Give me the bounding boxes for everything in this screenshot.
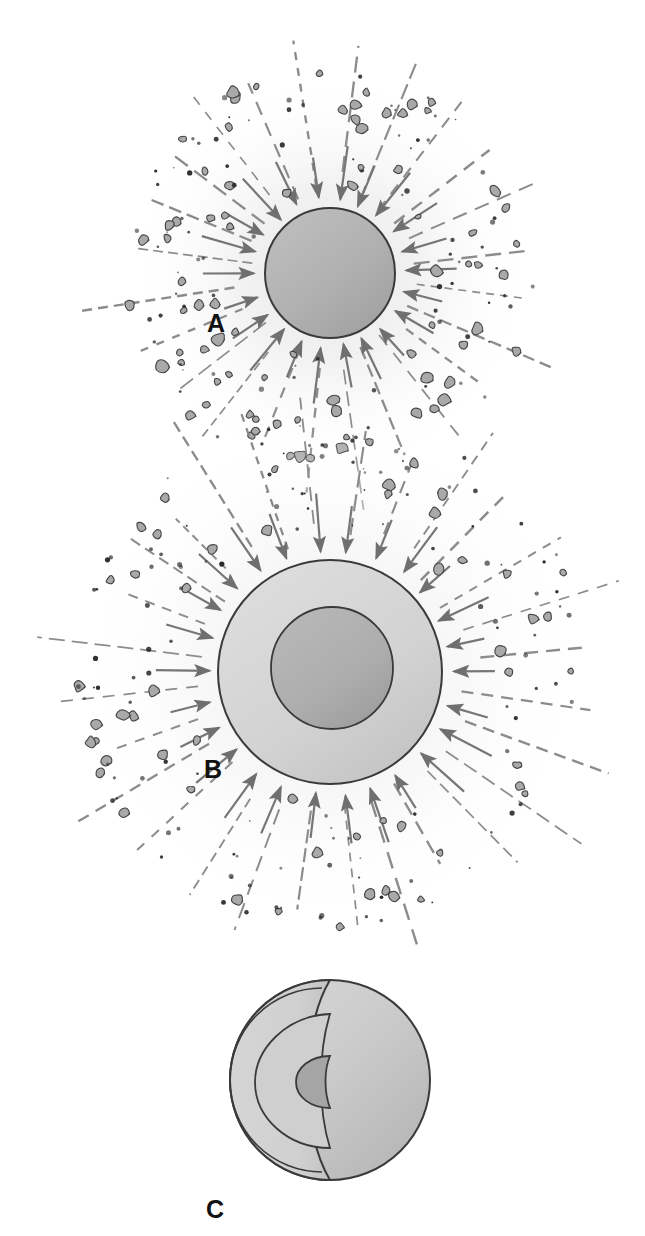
planetesimal <box>130 571 139 578</box>
dust-particle <box>146 647 151 652</box>
dust-particle <box>216 435 220 439</box>
dust-particle <box>402 460 404 462</box>
dust-particle <box>481 245 484 248</box>
planetesimal <box>438 488 448 500</box>
dust-particle <box>244 910 248 914</box>
dust-particle <box>480 170 485 175</box>
dust-particle <box>267 472 271 476</box>
dust-particle <box>186 525 188 527</box>
dust-particle <box>76 684 81 689</box>
dust-particle <box>153 340 156 343</box>
accretion-figure: A B C <box>0 0 645 1236</box>
dust-particle <box>159 552 163 556</box>
dust-particle <box>554 682 558 686</box>
dust-particle <box>301 103 305 107</box>
dust-particle <box>485 561 490 566</box>
dust-particle <box>364 489 366 491</box>
dust-particle <box>503 294 506 297</box>
planetesimal <box>295 417 301 423</box>
dust-particle <box>287 107 292 112</box>
dust-particle <box>348 838 350 840</box>
dust-particle <box>327 863 332 868</box>
dust-particle <box>519 522 523 526</box>
dust-particle <box>406 493 409 496</box>
dust-particle <box>352 525 354 527</box>
dust-particle <box>478 604 483 609</box>
dust-particle <box>204 560 207 563</box>
dust-particle <box>490 831 493 834</box>
dust-particle <box>450 282 453 285</box>
dust-particle <box>236 855 239 858</box>
dust-particle <box>211 372 215 376</box>
planetesimal <box>178 136 186 142</box>
dust-particle <box>465 334 470 339</box>
planetesimal <box>282 189 291 197</box>
dust-particle <box>514 716 518 720</box>
dust-particle <box>252 234 256 238</box>
dust-particle <box>398 134 400 136</box>
dust-particle <box>132 676 136 680</box>
dust-particle <box>493 619 498 624</box>
planetesimal <box>254 83 259 89</box>
planetesimal <box>434 563 445 575</box>
dust-particle <box>473 488 478 493</box>
dust-particle <box>179 363 182 366</box>
panel-b-core <box>271 607 393 729</box>
dust-particle <box>307 507 310 510</box>
dust-particle <box>424 385 427 388</box>
planetesimal <box>429 322 435 329</box>
panel-a-label: A <box>207 309 225 337</box>
planetesimal <box>437 850 443 857</box>
dust-particle <box>179 586 183 590</box>
dust-particle <box>179 390 182 393</box>
dust-particle <box>437 320 442 325</box>
dust-particle <box>157 245 160 248</box>
dust-particle <box>228 116 230 118</box>
planetesimal <box>331 405 341 416</box>
dust-particle <box>367 426 370 429</box>
dust-particle <box>156 183 159 186</box>
dust-particle <box>404 188 409 193</box>
planetesimal <box>177 349 184 356</box>
dust-particle <box>177 271 179 273</box>
dust-particle <box>179 565 183 569</box>
dust-particle <box>394 109 396 111</box>
dust-particle <box>180 217 183 220</box>
dust-particle <box>508 304 512 308</box>
dust-particle <box>106 763 109 766</box>
planetesimal <box>522 791 528 797</box>
panel-a-body <box>265 208 395 338</box>
dust-particle <box>372 388 376 392</box>
dust-particle <box>495 267 498 270</box>
dust-particle <box>294 365 296 367</box>
dust-particle <box>232 183 237 188</box>
dust-particle <box>365 915 368 918</box>
planetesimal <box>353 833 360 840</box>
dust-particle <box>146 670 151 675</box>
planetesimal <box>568 668 574 674</box>
dust-particle <box>292 488 294 490</box>
planetesimal <box>365 889 376 900</box>
dust-particle <box>488 302 490 304</box>
dust-particle <box>437 284 442 289</box>
dust-particle <box>225 164 229 168</box>
dust-particle <box>221 900 226 905</box>
dust-particle <box>166 830 171 835</box>
dust-particle <box>434 115 437 118</box>
dust-particle <box>318 916 322 920</box>
dust-particle <box>135 229 139 233</box>
panel-c-label: C <box>206 1195 224 1223</box>
dust-particle <box>105 557 110 562</box>
dust-particle <box>149 565 153 569</box>
dust-particle <box>523 653 528 658</box>
dust-particle <box>149 547 153 551</box>
dust-particle <box>382 523 384 525</box>
dust-particle <box>214 137 219 142</box>
dust-particle <box>249 820 251 822</box>
planetesimal <box>366 439 374 446</box>
dust-particle <box>113 776 116 779</box>
dust-particle <box>493 216 497 220</box>
dust-particle <box>248 883 252 887</box>
dust-particle <box>458 261 461 264</box>
planetesimal <box>421 372 434 383</box>
